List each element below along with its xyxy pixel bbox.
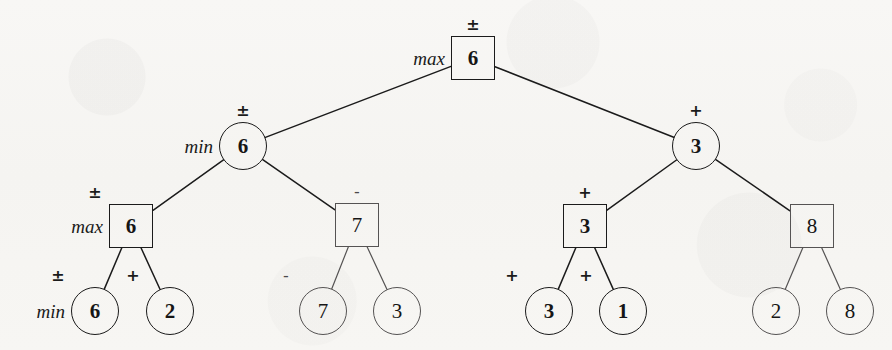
node-value: 3 bbox=[544, 301, 555, 322]
tree-node-n-rl[interactable]: 3 bbox=[563, 204, 607, 248]
node-operator-label: ± bbox=[84, 185, 106, 201]
tree-node-leaf-4[interactable]: 3 bbox=[373, 287, 421, 335]
tree-edge bbox=[104, 248, 121, 289]
node-value: 7 bbox=[318, 301, 329, 322]
tree-edge bbox=[607, 160, 677, 210]
node-operator-label: + bbox=[501, 268, 523, 284]
node-value: 6 bbox=[468, 48, 479, 69]
tree-node-n-l[interactable]: 6 bbox=[219, 122, 267, 170]
tree-node-leaf-6[interactable]: 1 bbox=[599, 287, 647, 335]
tree-node-leaf-1[interactable]: 6 bbox=[71, 287, 119, 335]
node-value: 6 bbox=[238, 136, 249, 157]
node-value: 7 bbox=[352, 215, 363, 236]
tree-edge bbox=[495, 67, 674, 138]
tree-edge bbox=[822, 248, 840, 289]
node-value: 8 bbox=[845, 301, 856, 322]
tree-node-n-r[interactable]: 3 bbox=[672, 122, 720, 170]
node-operator-label: - bbox=[346, 184, 368, 200]
node-value: 6 bbox=[126, 216, 137, 237]
game-tree-figure: 6±max6±min3+6±max7-3+86±min2+7-33+1+28 bbox=[0, 0, 892, 350]
node-value: 6 bbox=[90, 301, 101, 322]
tree-edge bbox=[265, 66, 451, 137]
tree-edge bbox=[367, 247, 387, 289]
node-value: 2 bbox=[165, 301, 176, 322]
node-side-label: max bbox=[375, 49, 445, 68]
node-side-label: max bbox=[33, 217, 103, 236]
node-value: 3 bbox=[580, 216, 591, 237]
tree-node-leaf-2[interactable]: 2 bbox=[146, 287, 194, 335]
node-operator-label: - bbox=[275, 268, 297, 284]
node-side-label: min bbox=[0, 302, 65, 321]
tree-edge bbox=[785, 248, 802, 289]
node-operator-label: ± bbox=[462, 17, 484, 33]
node-operator-label: ± bbox=[47, 268, 69, 284]
node-side-label: min bbox=[143, 137, 213, 156]
node-value: 1 bbox=[618, 301, 629, 322]
tree-node-leaf-8[interactable]: 8 bbox=[826, 287, 874, 335]
tree-edge bbox=[153, 160, 224, 210]
node-value: 8 bbox=[807, 216, 818, 237]
node-operator-label: + bbox=[575, 268, 597, 284]
tree-node-n-lr[interactable]: 7 bbox=[335, 203, 379, 247]
tree-node-leaf-5[interactable]: 3 bbox=[525, 287, 573, 335]
node-value: 2 bbox=[771, 301, 782, 322]
node-operator-label: + bbox=[685, 103, 707, 119]
tree-node-leaf-3[interactable]: 7 bbox=[299, 287, 347, 335]
node-operator-label: + bbox=[574, 185, 596, 201]
tree-edge bbox=[558, 248, 575, 289]
tree-edge bbox=[716, 160, 790, 211]
tree-edge bbox=[332, 247, 349, 289]
node-operator-label: + bbox=[122, 268, 144, 284]
node-operator-label: ± bbox=[232, 103, 254, 119]
tree-edge bbox=[595, 248, 613, 289]
node-value: 3 bbox=[392, 301, 403, 322]
tree-node-n-rr[interactable]: 8 bbox=[790, 204, 834, 248]
node-value: 3 bbox=[691, 136, 702, 157]
tree-edge bbox=[263, 160, 335, 210]
tree-node-root[interactable]: 6 bbox=[451, 36, 495, 80]
tree-node-n-ll[interactable]: 6 bbox=[109, 204, 153, 248]
tree-node-leaf-7[interactable]: 2 bbox=[752, 287, 800, 335]
